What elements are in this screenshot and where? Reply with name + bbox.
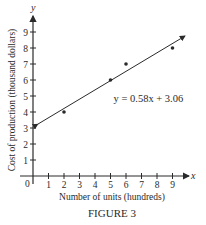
data-point (171, 46, 175, 50)
chart: 123456789123456789 y = 0.58x + 3.06 Numb… (0, 0, 206, 225)
origin-label: 0 (25, 179, 30, 189)
x-axis-symbol: x (190, 170, 196, 181)
x-axis-title: Number of units (hundreds) (59, 192, 165, 203)
y-tick-label: 9 (23, 28, 28, 38)
y-axis-title: Cost of production (thousand dollars) (7, 29, 18, 171)
data-point (124, 62, 128, 66)
x-tick-label: 5 (108, 180, 113, 190)
data-point (62, 110, 66, 114)
y-tick-label: 4 (23, 108, 28, 118)
y-axis-symbol: y (30, 2, 36, 13)
y-tick-label: 2 (23, 140, 28, 150)
data-point (109, 78, 113, 82)
ticks: 123456789123456789 (23, 28, 175, 191)
x-tick-label: 6 (124, 180, 129, 190)
y-tick-label: 7 (23, 60, 28, 70)
x-tick-label: 2 (62, 180, 67, 190)
x-tick-label: 1 (46, 180, 51, 190)
y-tick-label: 1 (23, 156, 28, 166)
x-tick-label: 7 (139, 180, 144, 190)
x-tick-label: 9 (170, 180, 175, 190)
y-tick-label: 5 (23, 92, 28, 102)
figure-caption: FIGURE 3 (88, 207, 136, 219)
x-tick-label: 8 (155, 180, 160, 190)
y-tick-label: 6 (23, 76, 28, 86)
y-tick-label: 8 (23, 44, 28, 54)
x-tick-label: 4 (93, 180, 98, 190)
x-tick-label: 3 (77, 180, 82, 190)
y-tick-label: 3 (23, 124, 28, 134)
equation-label: y = 0.58x + 3.06 (114, 93, 184, 104)
